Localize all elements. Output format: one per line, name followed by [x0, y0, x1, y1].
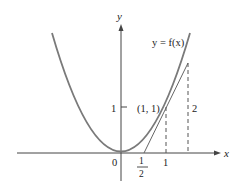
x-tick-label-1: 1 [163, 157, 168, 168]
x-tick-half-numerator: 1 [139, 156, 144, 166]
origin-label: 0 [112, 157, 117, 168]
y-tick-label-1: 1 [111, 103, 116, 114]
point-label: (1, 1) [137, 103, 160, 115]
y-axis-label: y [116, 10, 122, 22]
curve-label: y = f(x) [152, 37, 185, 49]
chart: y x y = f(x) (1, 1) 1 2 0 1 1 2 [0, 0, 247, 194]
y-axis-arrow-icon [119, 24, 124, 31]
x-axis-arrow-icon [214, 151, 221, 156]
tangent-line-figure: y x y = f(x) (1, 1) 1 2 0 1 1 2 [0, 0, 247, 194]
rise-label: 2 [192, 103, 197, 114]
x-tick-half-denominator: 2 [139, 169, 144, 179]
x-axis-label: x [223, 147, 229, 159]
